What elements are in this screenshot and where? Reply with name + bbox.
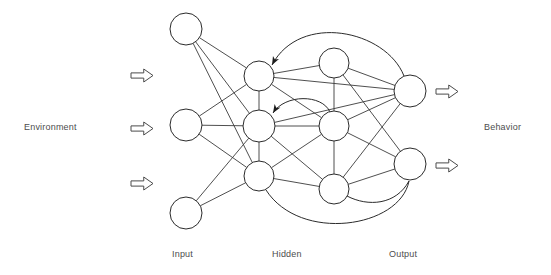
network-diagram: Environment Behavior Input Hidden Output xyxy=(0,0,551,275)
input-node-i3[interactable] xyxy=(170,197,202,229)
edge-h1-h5 xyxy=(271,84,321,117)
hidden-node-h2[interactable] xyxy=(243,110,275,142)
network-svg xyxy=(0,0,551,275)
arrowhead-rec-middle xyxy=(270,104,280,115)
edge-h5-o2 xyxy=(347,133,395,157)
edge-h6-o1 xyxy=(343,104,400,178)
environment-label: Environment xyxy=(24,122,77,132)
edge-h5-o1 xyxy=(348,98,396,120)
edges-group xyxy=(193,38,400,206)
beh-arrow-2-icon xyxy=(436,159,458,172)
output-node-o2[interactable] xyxy=(394,148,426,180)
edge-i1-h1 xyxy=(199,38,246,68)
env-arrow-2-icon xyxy=(131,122,153,135)
env-arrow-3-icon xyxy=(131,177,153,190)
output-layer-label: Output xyxy=(389,249,417,259)
hidden-node-h6[interactable] xyxy=(319,174,349,204)
edge-h4-o1 xyxy=(348,68,395,85)
env-arrow-1-icon xyxy=(131,69,153,82)
beh-arrow-1-icon xyxy=(436,85,458,98)
nodes-group xyxy=(170,13,426,229)
edge-i2-h3 xyxy=(199,134,247,167)
recurrent-edge-rec-middle xyxy=(273,99,330,113)
edge-h2-h6 xyxy=(271,136,322,179)
edge-h6-o2 xyxy=(348,169,395,184)
hidden-node-h4[interactable] xyxy=(319,48,349,78)
arrowhead-rec-top xyxy=(269,56,279,67)
input-layer-label: Input xyxy=(172,249,193,259)
edge-i3-h3 xyxy=(200,183,245,206)
edge-i2-h2 xyxy=(202,125,243,126)
input-node-i2[interactable] xyxy=(170,109,202,141)
output-node-o1[interactable] xyxy=(394,75,426,107)
hidden-node-h5[interactable] xyxy=(319,111,349,141)
edge-h3-h6 xyxy=(274,179,319,187)
edge-i3-h2 xyxy=(196,138,248,200)
input-node-i1[interactable] xyxy=(170,13,202,45)
behavior-label: Behavior xyxy=(484,122,521,132)
edge-h1-h4 xyxy=(274,66,319,74)
hidden-node-h3[interactable] xyxy=(244,161,274,191)
edge-h3-h5 xyxy=(271,134,321,167)
hidden-node-h1[interactable] xyxy=(244,61,274,91)
hidden-layer-label: Hidden xyxy=(272,249,302,259)
